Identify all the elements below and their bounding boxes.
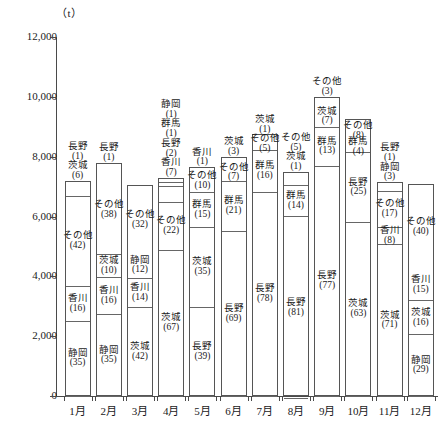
bar-segment[interactable]: 群馬(14) — [284, 186, 308, 217]
bar-segment-label: その他(7) — [219, 163, 249, 182]
x-axis-tick-mark — [344, 396, 345, 401]
bar-segment[interactable]: その他(22) — [159, 203, 183, 251]
stacked-bar[interactable]: 群馬(14)長野(81)その他(5)茨城(1) — [283, 172, 309, 396]
x-axis-tick-mark — [282, 396, 283, 401]
x-axis-tick-mark — [407, 396, 408, 401]
stacked-bar[interactable]: その他(42)香川(16)静岡(35)長野(1)茨城(6) — [65, 181, 91, 396]
x-axis-tick-mark — [216, 396, 217, 401]
bar-segment[interactable] — [284, 173, 308, 184]
bar-segment-label: 群馬(13) — [317, 137, 337, 156]
bar-segment[interactable]: その他(8) — [346, 120, 370, 142]
bar-segment[interactable]: 茨城(71) — [378, 245, 402, 397]
y-axis-tick: 2,000 — [0, 336, 57, 337]
bar-segment-label: 香川(16) — [68, 294, 88, 313]
bar-segment[interactable]: 静岡(29) — [409, 335, 433, 397]
bar-segment[interactable]: 香川(16) — [66, 287, 90, 321]
bar-segment[interactable]: 香川(8) — [378, 228, 402, 245]
stacked-bar[interactable]: その他(32)静岡(12)香川(14)茨城(42) — [127, 185, 153, 396]
bar-segment[interactable]: その他(42) — [66, 197, 90, 287]
bar-segment[interactable]: 茨城(10) — [97, 255, 121, 278]
bar-segment[interactable]: 長野(39) — [190, 308, 214, 397]
x-axis-tick-mark — [279, 396, 280, 401]
bar-segment[interactable]: 茨城(67) — [159, 251, 183, 397]
bar-segment[interactable] — [222, 158, 246, 165]
stacked-bar[interactable]: その他(7)群馬(21)長野(69)茨城(3) — [221, 157, 247, 396]
stacked-bar[interactable]: その他(40)香川(15)茨城(16)静岡(29) — [408, 184, 434, 396]
x-axis-label: 12月 — [401, 402, 441, 418]
bar-segment[interactable]: 茨城(16) — [409, 301, 433, 335]
bar-segment-label: その他(42) — [63, 232, 93, 251]
bar-segment-label: 群馬(21) — [224, 197, 244, 216]
bar-segment-label: 静岡(12) — [130, 256, 150, 275]
bar-segment[interactable]: その他(17) — [378, 192, 402, 228]
plot-area: 12,00010,0008,0006,0004,0002,0000 その他(42… — [0, 0, 443, 421]
bar-segment-label: その他(10) — [187, 172, 217, 191]
bar-outside-labels: 静岡(1)群馬(1)長野(2)香川(7) — [161, 100, 181, 178]
bar-segment[interactable]: 長野(25) — [346, 153, 370, 222]
bar-segment[interactable]: 香川(15) — [409, 270, 433, 302]
bar-segment[interactable]: 群馬(21) — [222, 182, 246, 232]
stacked-bar[interactable]: その他(5)群馬(16)長野(78)茨城(1) — [252, 134, 278, 396]
stacked-bar[interactable]: その他(17)香川(8)茨城(71)長野(1)静岡(3) — [377, 182, 403, 396]
bar-segment-label: 群馬(16) — [255, 162, 275, 181]
stacked-bar[interactable]: その他(22)茨城(67)静岡(1)群馬(1)長野(2)香川(7) — [158, 178, 184, 396]
bar-segment-label: 茨城(42) — [130, 342, 150, 361]
bar-segment[interactable] — [159, 187, 183, 202]
bar-segment[interactable]: その他(10) — [190, 170, 214, 193]
bar-segment[interactable]: 香川(16) — [97, 278, 121, 315]
y-axis-tick: 0 — [0, 396, 57, 397]
bar-segment-label: 群馬(15) — [192, 200, 212, 219]
bar-segment-label: 長野(39) — [192, 342, 212, 361]
y-axis-tick: 4,000 — [0, 276, 57, 277]
bar-segment[interactable]: 群馬(15) — [190, 193, 214, 227]
bar-segment-label: 茨城(67) — [161, 314, 181, 333]
bar-segment-label: 群馬(1) — [161, 119, 181, 138]
y-axis-tick-mark — [50, 97, 57, 98]
bar-segment-label: 香川(14) — [130, 283, 150, 302]
bar-segment[interactable]: その他(38) — [97, 166, 121, 255]
bar-segment[interactable]: 香川(14) — [128, 279, 152, 309]
bar-segment[interactable]: その他(7) — [222, 165, 246, 182]
stacked-bar[interactable]: その他(38)茨城(10)香川(16)静岡(35)長野(1) — [96, 163, 122, 396]
bar-segment[interactable]: 群馬(16) — [253, 151, 277, 193]
x-axis-tick-mark — [95, 396, 96, 401]
bar-outside-labels: その他(5)茨城(1) — [281, 133, 311, 172]
bar-segment-label: 茨城(71) — [380, 311, 400, 330]
bar-segment-label: 長野(25) — [348, 178, 368, 197]
stacked-bar[interactable]: 茨城(7)群馬(13)長野(77)その他(3) — [314, 97, 340, 396]
bar-outside-labels: 長野(1) — [99, 143, 119, 162]
bar-segment[interactable]: 茨城(7) — [315, 107, 339, 128]
bar-segment[interactable]: 静岡(35) — [97, 315, 121, 397]
stacked-bar[interactable]: その他(8)群馬(4)長野(25)茨城(63) — [345, 119, 371, 396]
x-axis-tick-mark — [341, 396, 342, 401]
bar-segment[interactable]: 茨城(35) — [190, 228, 214, 308]
bar-segment[interactable]: 長野(77) — [315, 167, 339, 397]
bar-segment[interactable]: 長野(78) — [253, 193, 277, 397]
bar-segment[interactable]: 群馬(4) — [346, 142, 370, 153]
bar-outside-labels: 長野(1)茨城(6) — [68, 142, 88, 181]
y-axis-tick-mark — [50, 37, 57, 38]
bar-segment-label: 茨城(6) — [68, 161, 88, 180]
bar-segment-label: 茨城(16) — [411, 308, 431, 327]
bar-segment-label: 香川(1) — [192, 148, 212, 167]
x-axis-tick-mark — [220, 396, 221, 401]
bar-segment[interactable] — [315, 98, 339, 107]
x-axis-tick-mark — [123, 396, 124, 401]
bar-outside-labels: 茨城(1) — [255, 115, 275, 134]
stacked-bar[interactable]: その他(10)群馬(15)茨城(35)長野(39)香川(1) — [189, 167, 215, 396]
bar-segment[interactable]: その他(32) — [128, 186, 152, 253]
bar-segment[interactable]: 茨城(63) — [346, 223, 370, 397]
bar-segment[interactable]: 長野(69) — [222, 232, 246, 397]
bar-segment-label: その他(3) — [312, 77, 342, 96]
bar-segment[interactable]: その他(5) — [253, 138, 277, 151]
bar-segment[interactable]: その他(40) — [409, 185, 433, 270]
x-axis-tick-mark — [92, 396, 93, 401]
bar-segment[interactable]: 長野(81) — [284, 217, 308, 399]
y-axis-tick: 10,000 — [0, 97, 57, 98]
bar-segment[interactable]: 静岡(35) — [66, 322, 90, 397]
bar-segment[interactable]: 茨城(42) — [128, 308, 152, 397]
x-axis-tick-mark — [251, 396, 252, 401]
bar-segment[interactable]: 群馬(13) — [315, 128, 339, 167]
bar-segment[interactable] — [66, 184, 90, 197]
bar-segment[interactable]: 静岡(12) — [128, 254, 152, 279]
